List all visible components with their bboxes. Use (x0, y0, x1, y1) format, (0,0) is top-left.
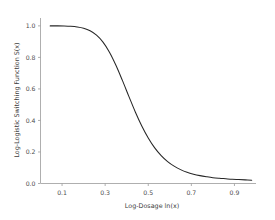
y-tick-label: 0.4 (26, 117, 36, 124)
y-tick-label: 0.8 (26, 54, 36, 61)
x-tick-label: 0.1 (57, 189, 67, 196)
x-tick-label: 0.3 (100, 189, 110, 196)
x-tick-label: 0.7 (186, 189, 196, 196)
x-tick-label: 0.9 (230, 189, 240, 196)
y-axis-title: Log-Logistic Switching Function S(x) (13, 42, 21, 157)
y-tick-label: 0.2 (26, 148, 36, 155)
chart-background (0, 0, 275, 220)
log-logistic-switching-function-chart: 0.00.20.40.60.81.0 0.10.30.50.70.9 Log-D… (0, 0, 275, 220)
y-tick-label: 1.0 (26, 22, 36, 29)
x-axis-title: Log-Dosage ln(x) (125, 202, 179, 210)
y-tick-label: 0.6 (26, 85, 36, 92)
y-tick-label: 0.0 (26, 180, 36, 187)
chart-page: 0.00.20.40.60.81.0 0.10.30.50.70.9 Log-D… (0, 0, 275, 220)
x-tick-label: 0.5 (143, 189, 153, 196)
